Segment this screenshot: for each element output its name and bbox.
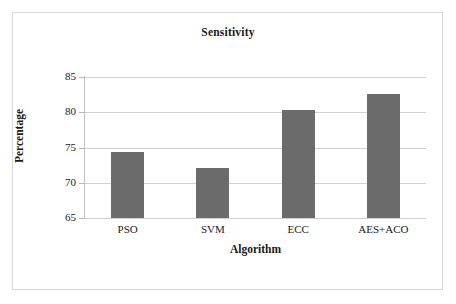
bar-svm[interactable] [196, 168, 229, 218]
y-tick-label: 75 [42, 141, 76, 153]
y-tick-label-group: 6570758085 [40, 0, 76, 304]
bar-series [85, 77, 426, 218]
bar-ecc[interactable] [282, 110, 315, 218]
figure-container: Sensitivity Percentage 6570758085 PSOSVM… [0, 0, 456, 304]
x-tick-label-group: PSOSVMECCAES+ACO [85, 223, 426, 241]
gridline-65 [85, 218, 426, 219]
y-tick-mark-65 [79, 218, 85, 219]
x-tick-label-pso: PSO [85, 223, 170, 235]
x-tick-label-aes-aco: AES+ACO [341, 223, 426, 235]
y-tick-label: 70 [42, 176, 76, 188]
y-tick-mark-80 [79, 112, 85, 113]
x-axis-title: Algorithm [85, 243, 426, 255]
y-tick-mark-70 [79, 183, 85, 184]
y-tick-label: 85 [42, 70, 76, 82]
y-tick-label: 65 [42, 211, 76, 223]
y-tick-label: 80 [42, 105, 76, 117]
bar-aes-aco[interactable] [367, 94, 400, 218]
y-tick-mark-85 [79, 77, 85, 78]
x-tick-label-ecc: ECC [256, 223, 341, 235]
x-tick-label-svm: SVM [170, 223, 255, 235]
y-axis-title: Percentage [13, 91, 25, 181]
y-tick-mark-75 [79, 148, 85, 149]
bar-pso[interactable] [111, 152, 144, 218]
